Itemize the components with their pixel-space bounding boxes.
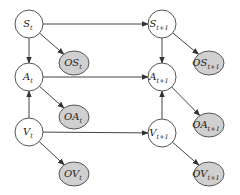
node-V_t: Vt bbox=[15, 118, 43, 146]
node-S_t1: St+1 bbox=[148, 10, 176, 38]
node-OA_t: OAt bbox=[59, 105, 89, 129]
node-OS_t: OSt bbox=[59, 51, 89, 75]
node-OV_t1: OVt+1 bbox=[192, 162, 224, 186]
edge-V_t-to-V_t1 bbox=[43, 132, 148, 133]
node-OA_t1: OAt+1 bbox=[192, 113, 224, 137]
node-OS_t1: OSt+1 bbox=[192, 51, 224, 75]
edge-S_t-to-OS_t bbox=[40, 33, 64, 54]
edge-S_t1-to-OS_t1 bbox=[173, 33, 199, 54]
edge-V_t1-to-OV_t1 bbox=[173, 142, 199, 165]
edges-layer bbox=[29, 24, 200, 165]
node-V_t1: Vt+1 bbox=[148, 119, 176, 147]
edge-A_t1-to-OA_t1 bbox=[172, 87, 200, 116]
node-A_t1: At+1 bbox=[148, 63, 176, 91]
node-OV_t: OVt bbox=[59, 162, 89, 186]
edge-A_t-to-OA_t bbox=[39, 86, 64, 108]
dbn-diagram: StOStAtOAtVtOVtSt+1OSt+1At+1OAt+1Vt+1OVt… bbox=[0, 0, 240, 195]
diagram-canvas: StOStAtOAtVtOVtSt+1OSt+1At+1OAt+1Vt+1OVt… bbox=[0, 0, 240, 195]
node-S_t: St bbox=[15, 10, 43, 38]
node-A_t: At bbox=[15, 63, 43, 91]
edge-V_t-to-OV_t bbox=[39, 142, 64, 165]
